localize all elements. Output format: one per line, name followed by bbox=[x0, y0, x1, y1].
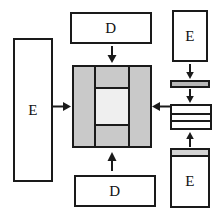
center-bottom-band bbox=[96, 124, 128, 146]
arrow-bottom-d-to-center bbox=[104, 152, 120, 171]
block-right-e-bottom-label: E bbox=[185, 174, 195, 189]
block-bottom-d: D bbox=[74, 175, 156, 207]
stack-band-2 bbox=[172, 115, 210, 122]
stack-band-3 bbox=[172, 122, 210, 128]
block-right-e-bottom-body: E bbox=[172, 157, 208, 206]
block-right-banded-stack bbox=[170, 104, 212, 130]
block-top-d: D bbox=[70, 12, 152, 44]
arrow-left-e-to-center bbox=[53, 99, 71, 114]
block-left-e: E bbox=[13, 38, 53, 182]
arrow-right-e-top-to-bar bbox=[183, 64, 197, 79]
center-top-band bbox=[96, 67, 128, 89]
center-left-column bbox=[74, 67, 96, 146]
stack-band-1 bbox=[172, 106, 210, 115]
block-left-e-label: E bbox=[28, 103, 38, 118]
block-right-thin-bar bbox=[170, 80, 210, 88]
arrow-top-d-to-center bbox=[104, 46, 120, 63]
block-right-e-top: E bbox=[172, 10, 208, 62]
center-right-column bbox=[128, 67, 150, 146]
block-right-e-top-label: E bbox=[185, 29, 195, 44]
center-middle-column bbox=[96, 67, 128, 146]
block-bottom-d-label: D bbox=[109, 184, 120, 199]
block-right-e-bottom: E bbox=[170, 148, 210, 208]
arrow-right-e-bottom-to-stack bbox=[183, 132, 197, 147]
arrow-right-stack-to-center bbox=[152, 99, 170, 114]
arrow-bar-to-stack bbox=[183, 89, 197, 103]
diagram-canvas: E D D E E bbox=[0, 0, 218, 217]
block-center-assembly bbox=[72, 65, 152, 148]
block-right-e-bottom-cap bbox=[172, 150, 208, 157]
center-core bbox=[96, 89, 128, 124]
block-top-d-label: D bbox=[105, 21, 116, 36]
